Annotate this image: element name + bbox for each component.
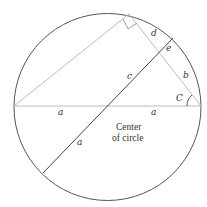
right-angle-marker (123, 19, 137, 29)
triangle-leg-right (129, 14, 201, 106)
diagram-canvas: a a a c d e b C Center of circle (0, 0, 207, 207)
center-note-line1: Center (116, 122, 142, 132)
angle-C-arc (187, 95, 192, 106)
triangle-leg-left (14, 14, 129, 106)
label-a-right: a (151, 107, 156, 117)
label-a-lower: a (77, 137, 82, 147)
label-c: c (127, 71, 132, 81)
center-note-line2: of circle (112, 133, 143, 143)
label-e: e (166, 43, 171, 53)
label-b: b (183, 70, 189, 80)
circle (14, 14, 201, 201)
label-d: d (151, 28, 157, 38)
label-a-left: a (58, 107, 63, 117)
label-C: C (176, 93, 183, 103)
